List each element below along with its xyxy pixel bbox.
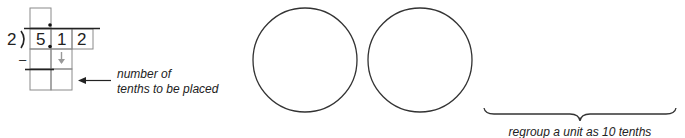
dividend-digit-1: 1 (57, 30, 66, 49)
bring-down-arrow-icon (58, 52, 65, 64)
unit-circle-2 (368, 8, 472, 112)
tenths-label-line1: number of (117, 67, 173, 81)
left-arrow-icon (78, 77, 111, 84)
regroup-label: regroup a unit as 10 tenths (509, 125, 652, 138)
decimal-point-quotient (48, 23, 52, 27)
curly-brace (484, 108, 676, 121)
grid-cell-top (30, 8, 51, 28)
diagram-canvas: 2 5 1 2 – number of tenths to be placed … (0, 0, 685, 138)
grid-cell-result-2 (51, 69, 72, 90)
grid-cell-result-1 (30, 69, 51, 90)
grid-cell-sub-1 (30, 49, 51, 69)
unit-circle-1 (253, 8, 357, 112)
decimal-point-dividend (48, 45, 52, 49)
subtract-sign: – (19, 52, 27, 67)
division-grid (30, 8, 93, 90)
division-bracket (21, 31, 24, 48)
dividend-digit-5: 5 (36, 30, 45, 49)
dividend-digit-2: 2 (77, 30, 86, 49)
tenths-label-line2: tenths to be placed (117, 82, 219, 96)
divisor: 2 (7, 30, 16, 49)
